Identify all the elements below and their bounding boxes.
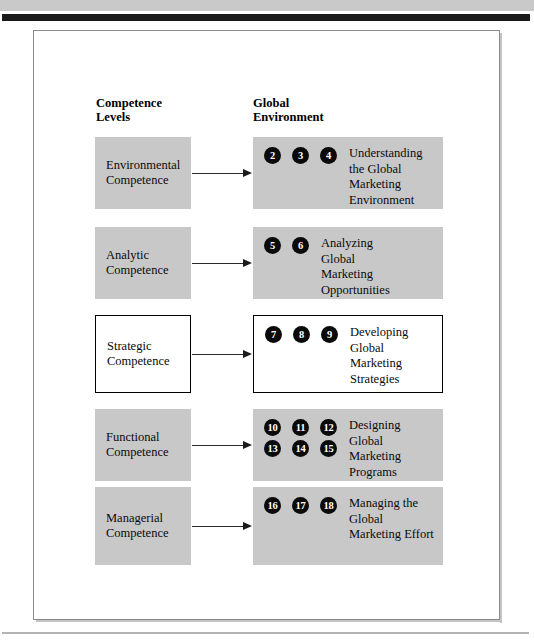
chapter-badge-17: 17 [292,497,309,514]
arrow-shaft [192,173,244,174]
arrow-shaft [192,526,244,527]
competence-level-box-strategic: Strategic Competence [95,315,191,393]
arrow-functional [192,441,252,450]
global-environment-box-analytic: 56Analyzing Global Marketing Opportuniti… [253,227,443,299]
competence-level-label: Strategic Competence [107,339,169,370]
chapter-badge-15: 15 [320,440,337,457]
global-environment-label: Managing the Global Marketing Effort [349,496,434,543]
column-heading-global-environment: Global Environment [253,96,324,124]
global-environment-box-functional: 101112131415Designing Global Marketing P… [253,409,443,481]
chapter-badge-18: 18 [320,497,337,514]
arrow-shaft [192,263,244,264]
global-environment-box-environmental: 234Understanding the Global Marketing En… [253,137,443,209]
chapter-badge-2: 2 [264,147,281,164]
chapter-badge-group: 56 [264,236,309,254]
arrow-head-icon [243,441,252,449]
global-environment-box-strategic: 789Developing Global Marketing Strategie… [253,315,443,393]
env-box-content: 56Analyzing Global Marketing Opportuniti… [264,236,435,298]
global-environment-label: Understanding the Global Marketing Envir… [349,146,423,208]
chapter-badge-group: 234 [264,146,337,164]
chapter-badge-group: 101112131415 [264,418,337,457]
chapter-badge-group: 161718 [264,496,337,514]
arrow-managerial [192,522,252,531]
competence-level-box-analytic: Analytic Competence [95,227,191,299]
competence-level-box-functional: Functional Competence [95,409,191,481]
page-bottom-rule [2,632,529,634]
competence-level-label: Environmental Competence [106,158,180,189]
chapter-badge-5: 5 [264,237,281,254]
arrow-shaft [192,354,244,355]
competence-level-label: Managerial Competence [106,511,168,542]
chapter-badge-row: 131415 [264,440,337,457]
competence-level-box-environmental: Environmental Competence [95,137,191,209]
frame-shadow-bottom [36,620,502,622]
global-environment-label: Developing Global Marketing Strategies [350,325,408,387]
arrow-environmental [192,169,252,178]
chapter-badge-row: 161718 [264,497,337,514]
chapter-badge-13: 13 [264,440,281,457]
arrow-head-icon [243,522,252,530]
chapter-badge-row: 101112 [264,419,337,436]
chapter-badge-14: 14 [292,440,309,457]
chapter-badge-8: 8 [293,326,310,343]
competence-level-box-managerial: Managerial Competence [95,487,191,565]
chapter-badge-row: 789 [265,326,338,343]
chapter-badge-6: 6 [292,237,309,254]
chapter-badge-4: 4 [320,147,337,164]
env-box-content: 101112131415Designing Global Marketing P… [264,418,435,480]
arrow-head-icon [243,259,252,267]
chapter-badge-12: 12 [320,419,337,436]
column-heading-competence-levels: Competence Levels [96,96,162,124]
chapter-badge-9: 9 [321,326,338,343]
env-box-content: 789Developing Global Marketing Strategie… [265,325,434,387]
chapter-badge-row: 56 [264,237,309,254]
chapter-badge-11: 11 [292,419,309,436]
chapter-badge-10: 10 [264,419,281,436]
arrow-shaft [192,445,244,446]
arrow-analytic [192,259,252,268]
chapter-badge-row: 234 [264,147,337,164]
chapter-badge-3: 3 [292,147,309,164]
global-environment-label: Designing Global Marketing Programs [349,418,401,480]
chapter-badge-7: 7 [265,326,282,343]
competence-level-label: Functional Competence [106,430,168,461]
page-top-gray-band [0,0,534,11]
chapter-badge-16: 16 [264,497,281,514]
env-box-content: 161718Managing the Global Marketing Effo… [264,496,435,543]
chapter-badge-group: 789 [265,325,338,343]
global-environment-label: Analyzing Global Marketing Opportunities [321,236,390,298]
competence-level-label: Analytic Competence [106,248,168,279]
arrow-head-icon [243,169,252,177]
page-top-rule [2,14,530,21]
global-environment-box-managerial: 161718Managing the Global Marketing Effo… [253,487,443,565]
arrow-strategic [192,350,252,359]
arrow-head-icon [243,350,252,358]
env-box-content: 234Understanding the Global Marketing En… [264,146,435,208]
frame-shadow-right [500,33,502,623]
